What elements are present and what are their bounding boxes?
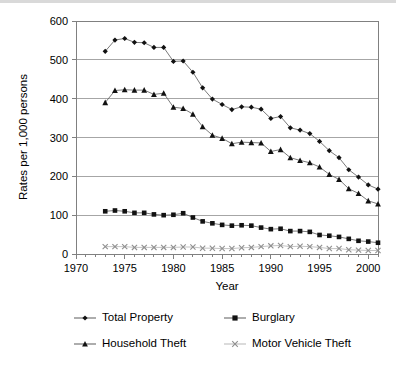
x-axis: 1970197519801985199019952000: [64, 254, 381, 274]
series-total-property: [103, 36, 381, 192]
datapoint-household-theft-1996: [326, 171, 332, 177]
series-motor-vehicle-theft: [103, 243, 381, 253]
x-tick-label-1980: 1980: [161, 262, 185, 274]
datapoint-burglary-1979: [161, 213, 166, 218]
datapoint-total-property-1977: [142, 40, 147, 45]
datapoint-burglary-1973: [103, 209, 108, 214]
series-layer: [102, 36, 381, 253]
datapoint-household-theft-1997: [336, 176, 342, 182]
datapoint-burglary-2001: [376, 240, 381, 245]
datapoint-burglary-1997: [337, 235, 342, 240]
datapoint-total-property-1975: [122, 36, 127, 41]
datapoint-burglary-1976: [132, 211, 137, 216]
legend-label-household-theft: Household Theft: [102, 337, 187, 349]
y-tick-label-200: 200: [50, 170, 68, 182]
datapoint-total-property-1976: [132, 40, 137, 45]
datapoint-burglary-1992: [288, 229, 293, 234]
property-crime-line-chart: 0100200300400500600 19701975198019851990…: [0, 0, 396, 370]
datapoint-burglary-1995: [317, 233, 322, 238]
x-tick-label-1995: 1995: [307, 262, 331, 274]
datapoint-total-property-1986: [229, 107, 234, 112]
datapoint-household-theft-1995: [317, 164, 323, 170]
datapoint-burglary-1982: [191, 215, 196, 220]
datapoint-burglary-1993: [298, 229, 303, 234]
datapoint-household-theft-1999: [356, 190, 362, 196]
y-tick-label-600: 600: [50, 15, 68, 27]
legend-item-total-property[interactable]: Total Property: [74, 311, 173, 323]
y-tick-label-500: 500: [50, 54, 68, 66]
legend-item-household-theft[interactable]: Household Theft: [74, 337, 187, 349]
datapoint-burglary-1984: [210, 221, 215, 226]
datapoint-household-theft-1991: [278, 147, 284, 153]
y-tick-label-300: 300: [50, 132, 68, 144]
datapoint-burglary-1975: [122, 209, 127, 214]
datapoint-burglary-1974: [113, 208, 118, 213]
legend-marker-burglary: [232, 315, 237, 320]
y-axis: 0100200300400500600: [50, 15, 76, 260]
datapoint-burglary-1977: [142, 211, 147, 216]
datapoint-burglary-1996: [327, 233, 332, 238]
chart-legend: Total PropertyBurglaryHousehold TheftMot…: [74, 311, 352, 349]
datapoint-burglary-1987: [239, 223, 244, 228]
datapoint-burglary-1981: [181, 211, 186, 216]
series-burglary: [103, 208, 380, 245]
datapoint-total-property-1985: [220, 102, 225, 107]
datapoint-burglary-1978: [152, 212, 157, 217]
x-axis-title: Year: [215, 280, 238, 292]
x-tick-label-1990: 1990: [259, 262, 283, 274]
datapoint-total-property-1987: [239, 104, 244, 109]
datapoint-burglary-1998: [346, 237, 351, 242]
legend-label-total-property: Total Property: [102, 311, 173, 323]
y-tick-label-100: 100: [50, 209, 68, 221]
gridlines: [76, 60, 378, 215]
datapoint-burglary-1985: [220, 223, 225, 228]
datapoint-total-property-1979: [161, 45, 166, 50]
datapoint-total-property-1993: [297, 128, 302, 133]
datapoint-total-property-2001: [375, 187, 380, 192]
x-tick-label-2000: 2000: [356, 262, 380, 274]
datapoint-burglary-1991: [278, 226, 283, 231]
datapoint-total-property-1988: [249, 105, 254, 110]
y-axis-title: Rates per 1,000 persons: [17, 74, 29, 200]
x-tick-label-1985: 1985: [210, 262, 234, 274]
datapoint-burglary-2000: [366, 239, 371, 244]
y-tick-label-0: 0: [62, 248, 68, 260]
datapoint-household-theft-1982: [190, 111, 196, 117]
legend-item-motor-vehicle-theft[interactable]: Motor Vehicle Theft: [224, 337, 352, 349]
datapoint-burglary-1990: [269, 227, 274, 232]
chart-container: 0100200300400500600 19701975198019851990…: [0, 0, 396, 370]
datapoint-household-theft-2000: [365, 198, 371, 204]
datapoint-burglary-1988: [249, 223, 254, 228]
x-tick-label-1975: 1975: [112, 262, 136, 274]
legend-label-burglary: Burglary: [252, 311, 295, 323]
y-tick-label-400: 400: [50, 93, 68, 105]
datapoint-total-property-1978: [151, 45, 156, 50]
datapoint-burglary-1989: [259, 225, 264, 230]
legend-label-motor-vehicle-theft: Motor Vehicle Theft: [252, 337, 352, 349]
datapoint-burglary-1980: [171, 212, 176, 217]
datapoint-burglary-1994: [308, 230, 313, 235]
datapoint-burglary-1986: [230, 223, 235, 228]
datapoint-burglary-1999: [356, 238, 361, 243]
legend-marker-total-property: [82, 315, 87, 320]
datapoint-burglary-1983: [200, 219, 205, 224]
x-tick-label-1970: 1970: [64, 262, 88, 274]
legend-item-burglary[interactable]: Burglary: [224, 311, 295, 323]
